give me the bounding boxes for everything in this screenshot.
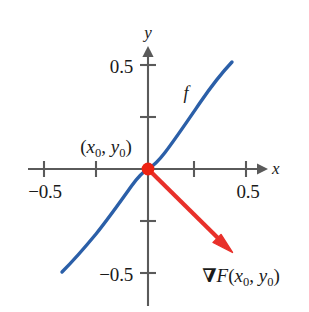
point-label-close-paren: ): [125, 136, 131, 157]
gradient-label-function: F: [217, 265, 229, 286]
figure-canvas: y x 0.5 −0.5 −0.5 0.5 f (x0, y0) ∇F(x0, …: [0, 0, 309, 312]
point-label-y-var: y: [111, 136, 119, 157]
point-coordinate-label: (x0, y0): [80, 137, 132, 160]
x-axis-arrowhead: [257, 163, 268, 174]
point-label-comma: ,: [101, 136, 111, 157]
y-axis-arrowhead: [142, 46, 153, 57]
marked-point-dot: [142, 163, 155, 176]
gradient-label-x-var: x: [235, 265, 243, 286]
curve-f-label: f: [183, 84, 188, 102]
y-tick-label--0.5: −0.5: [99, 265, 133, 284]
gradient-vector-label: ∇F(x0, y0): [202, 266, 279, 289]
y-tick-label-0.5: 0.5: [110, 57, 133, 76]
gradient-vector-shaft: [148, 169, 222, 242]
y-axis-label: y: [144, 24, 152, 41]
gradient-vector-arrow: [148, 169, 233, 253]
gradient-label-y-var: y: [259, 265, 267, 286]
x-tick-label--0.5: −0.5: [28, 182, 62, 201]
nabla-icon: ∇: [202, 265, 216, 286]
x-axis-label: x: [272, 160, 280, 177]
point-label-x-var: x: [87, 136, 95, 157]
x-tick-label-0.5: 0.5: [236, 182, 259, 201]
gradient-label-close-paren: ): [273, 265, 279, 286]
